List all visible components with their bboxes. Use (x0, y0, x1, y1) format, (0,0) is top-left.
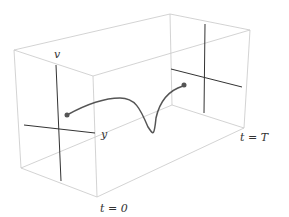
t-end-label: t = T (240, 131, 270, 144)
phase-space-box-diagram: v y t = 0 t = T (0, 0, 289, 217)
t-start-label: t = 0 (100, 202, 128, 215)
start-point (65, 113, 70, 118)
end-point (182, 83, 187, 88)
front-axes (24, 65, 95, 181)
bounding-box (14, 14, 250, 197)
y-axis-label: y (100, 128, 108, 141)
back-axes (171, 24, 242, 113)
trajectory-curve (67, 86, 183, 133)
v-axis-label: v (54, 48, 61, 61)
